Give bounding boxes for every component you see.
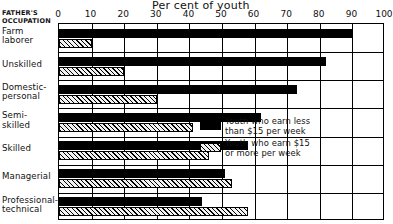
category-label: Managerial xyxy=(2,172,58,181)
x-tick-label: 60 xyxy=(248,9,259,19)
bar-chart: Per cent of youth FATHER'S OCCUPATION 01… xyxy=(0,0,393,224)
bar-less-than-15 xyxy=(59,85,297,94)
chart-legend: Youth who earn lessthan $15 per weekYout… xyxy=(200,118,324,162)
category-label-line: Managerial xyxy=(2,172,58,181)
bar-group xyxy=(59,165,383,193)
x-tick-label: 10 xyxy=(85,9,96,19)
legend-label-line-2: than $15 per week xyxy=(225,127,310,137)
category-label-line: personal xyxy=(2,92,58,101)
category-label: Semi-skilled xyxy=(2,111,58,130)
category-label: Skilled xyxy=(2,144,58,153)
x-tick-label: 70 xyxy=(280,9,291,19)
row-separator xyxy=(59,193,383,194)
legend-swatch-15-or-more xyxy=(200,143,221,152)
x-tick-label: 20 xyxy=(117,9,128,19)
x-tick-label: 100 xyxy=(375,9,392,19)
category-label-line: Unskilled xyxy=(2,60,58,69)
x-tick-label: 50 xyxy=(215,9,226,19)
bar-less-than-15 xyxy=(59,169,225,178)
bar-15-or-more xyxy=(59,179,232,188)
category-label-line: technical xyxy=(2,205,58,214)
bar-less-than-15 xyxy=(59,197,202,206)
legend-item: Youth who earn $15or more per week xyxy=(200,140,324,160)
bar-15-or-more xyxy=(59,123,193,132)
row-separator xyxy=(59,165,383,166)
row-separator xyxy=(59,80,383,81)
category-label: Professional-technical xyxy=(2,196,58,215)
bar-group xyxy=(59,24,383,52)
legend-label-line-2: or more per week xyxy=(225,149,310,159)
bar-group xyxy=(59,80,383,108)
x-tick-label: 40 xyxy=(183,9,194,19)
bar-group xyxy=(59,193,383,221)
category-label-line: skilled xyxy=(2,121,58,130)
legend-item: Youth who earn lessthan $15 per week xyxy=(200,118,324,138)
legend-label: Youth who earn $15or more per week xyxy=(225,139,310,158)
bar-group xyxy=(59,52,383,80)
bar-15-or-more xyxy=(59,151,209,160)
bar-15-or-more xyxy=(59,207,248,216)
category-label-line: Skilled xyxy=(2,144,58,153)
bar-less-than-15 xyxy=(59,29,352,38)
y-axis-title: FATHER'S OCCUPATION xyxy=(2,10,58,25)
legend-swatch-less-than-15 xyxy=(200,121,221,130)
legend-label: Youth who earn lessthan $15 per week xyxy=(225,117,310,136)
bar-15-or-more xyxy=(59,67,124,76)
x-tick-label: 30 xyxy=(150,9,161,19)
bar-15-or-more xyxy=(59,95,157,104)
x-tick-label: 80 xyxy=(313,9,324,19)
category-label-line: laborer xyxy=(2,36,58,45)
row-separator xyxy=(59,108,383,109)
row-separator xyxy=(59,52,383,53)
category-label: Domestic-personal xyxy=(2,83,58,102)
category-label: Farmlaborer xyxy=(2,27,58,46)
bar-less-than-15 xyxy=(59,57,326,66)
x-tick-label: 0 xyxy=(55,9,61,19)
y-axis-title-line-2: OCCUPATION xyxy=(2,18,58,26)
bar-15-or-more xyxy=(59,39,92,48)
x-tick-label: 90 xyxy=(346,9,357,19)
category-label: Unskilled xyxy=(2,60,58,69)
chart-title: Per cent of youth xyxy=(152,0,250,12)
